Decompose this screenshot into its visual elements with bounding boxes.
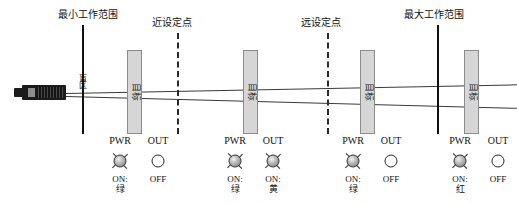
power-state-label-3: ON: <box>345 174 361 184</box>
target-label-3: 目标 <box>363 83 372 101</box>
target-bar-4: 目标 <box>464 50 479 134</box>
power-led-4 <box>447 151 473 171</box>
indicator-states-2: ON: 绿 ON: 黄 <box>215 174 293 195</box>
power-led-circle-icon <box>454 155 467 168</box>
output-state-label-2: ON: <box>265 174 281 184</box>
far-setpoint-line <box>327 33 329 134</box>
power-header-3: PWR <box>340 136 366 146</box>
power-led-circle-icon <box>229 155 242 168</box>
output-led-3 <box>378 151 404 171</box>
output-state-label-4: OFF <box>490 174 507 184</box>
target-label-1: 目标 <box>130 83 139 101</box>
sensor-lens-icon <box>28 88 35 97</box>
indicator-group-3: PWR OUT ON: 绿 OFF <box>333 136 411 195</box>
max-range-boundary-line <box>437 25 439 134</box>
indicator-headers-1: PWR OUT <box>100 136 178 146</box>
output-state-label-3: OFF <box>383 174 400 184</box>
power-state-3: ON: 绿 <box>340 174 366 195</box>
power-led-3 <box>340 151 366 171</box>
output-header-1: OUT <box>145 136 171 146</box>
output-led-circle-icon <box>492 155 505 168</box>
power-header-2: PWR <box>222 136 248 146</box>
power-state-label-4: ON: <box>452 174 468 184</box>
output-led-circle-icon <box>267 155 280 168</box>
output-header-3: OUT <box>378 136 404 146</box>
target-label-2: 目标 <box>246 83 255 101</box>
near-setpoint-line <box>177 33 179 134</box>
power-color-label-4: 红 <box>456 184 465 194</box>
power-state-1: ON: 绿 <box>107 174 133 195</box>
power-header-1: PWR <box>107 136 133 146</box>
indicator-headers-3: PWR OUT <box>333 136 411 146</box>
output-led-2 <box>260 151 286 171</box>
indicator-lamps-1 <box>100 151 178 171</box>
output-led-circle-icon <box>385 155 398 168</box>
target-bar-3: 目标 <box>360 50 375 134</box>
output-led-4 <box>485 151 511 171</box>
indicator-group-1: PWR OUT ON: 绿 OFF <box>100 136 178 195</box>
indicator-lamps-2 <box>215 151 293 171</box>
min-range-boundary-line <box>82 25 84 134</box>
output-state-label-1: OFF <box>150 174 167 184</box>
min-range-caption: 最小工作范围 <box>58 10 118 20</box>
target-bar-2: 目标 <box>243 50 258 134</box>
power-state-label-1: ON: <box>112 174 128 184</box>
power-header-4: PWR <box>447 136 473 146</box>
power-color-label-2: 绿 <box>231 184 240 194</box>
far-setpoint-caption: 远设定点 <box>301 18 341 28</box>
sensor-range-diagram: 盲区 最小工作范围 最大工作范围 近设定点 远设定点 目标 目标 目标 目标 P… <box>0 0 517 204</box>
power-color-label-3: 绿 <box>349 184 358 194</box>
output-header-4: OUT <box>485 136 511 146</box>
target-bar-1: 目标 <box>127 50 142 134</box>
power-led-1 <box>107 151 133 171</box>
indicator-lamps-3 <box>333 151 411 171</box>
power-led-circle-icon <box>114 155 127 168</box>
indicator-group-4: PWR OUT ON: 红 OFF <box>440 136 517 195</box>
indicator-states-3: ON: 绿 OFF <box>333 174 411 195</box>
indicator-states-4: ON: 红 OFF <box>440 174 517 195</box>
indicator-headers-4: PWR OUT <box>440 136 517 146</box>
output-state-3: OFF <box>378 174 404 195</box>
indicator-lamps-4 <box>440 151 517 171</box>
sensor-ribs <box>38 87 63 98</box>
power-state-2: ON: 绿 <box>222 174 248 195</box>
target-label-4: 目标 <box>467 83 476 101</box>
output-state-4: OFF <box>485 174 511 195</box>
output-state-1: OFF <box>145 174 171 195</box>
output-led-1 <box>145 151 171 171</box>
output-header-2: OUT <box>260 136 286 146</box>
power-led-2 <box>222 151 248 171</box>
max-range-caption: 最大工作范围 <box>404 10 464 20</box>
output-led-circle-icon <box>152 155 165 168</box>
indicator-group-2: PWR OUT ON: 绿 <box>215 136 293 195</box>
ultrasonic-sensor <box>14 85 66 100</box>
output-state-2: ON: 黄 <box>260 174 286 195</box>
power-led-circle-icon <box>347 155 360 168</box>
near-setpoint-caption: 近设定点 <box>152 18 192 28</box>
output-color-label-2: 黄 <box>269 184 278 194</box>
indicator-states-1: ON: 绿 OFF <box>100 174 178 195</box>
indicator-headers-2: PWR OUT <box>215 136 293 146</box>
power-state-label-2: ON: <box>227 174 243 184</box>
power-state-4: ON: 红 <box>447 174 473 195</box>
power-color-label-1: 绿 <box>116 184 125 194</box>
